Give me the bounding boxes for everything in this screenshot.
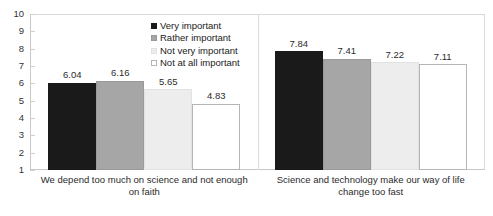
bar-value-label: 6.04 [48, 70, 96, 80]
y-axis-tick-label: 2 [19, 148, 24, 158]
bar-value-label: 5.65 [144, 77, 192, 87]
y-axis-tick-label: 9 [19, 27, 24, 37]
legend-swatch-icon [151, 35, 157, 41]
y-axis-tick-mark [30, 135, 35, 136]
y-axis-tick-label: 3 [19, 131, 24, 141]
bar-group: 7.847.417.227.11 [258, 14, 485, 170]
y-axis-tick-mark [30, 153, 35, 154]
bar-value-label: 7.41 [323, 46, 371, 56]
legend-item[interactable]: Not at all important [151, 58, 240, 68]
bar [275, 51, 323, 170]
y-axis-tick-label: 5 [19, 96, 24, 106]
legend-item-label: Not very important [160, 46, 238, 56]
bar-chart: 10987654321 6.046.165.654.837.847.417.22… [0, 0, 493, 216]
bar-slot: 7.22 [371, 14, 419, 170]
legend-item-label: Very important [160, 21, 221, 31]
legend-item-label: Rather important [160, 33, 231, 43]
y-axis-tick-mark [30, 118, 35, 119]
bar-slot: 7.11 [419, 14, 467, 170]
bar-slot: 7.41 [323, 14, 371, 170]
y-axis-tick-mark [30, 14, 35, 15]
bar-slot: 7.84 [275, 14, 323, 170]
y-axis-tick-mark [30, 170, 35, 171]
bar-groups: 6.046.165.654.837.847.417.227.11 [31, 14, 484, 170]
y-axis-tick-mark [30, 66, 35, 67]
category-label: We depend too much on science and not en… [31, 174, 258, 197]
chart-legend: Very importantRather importantNot very i… [151, 21, 240, 68]
y-axis-tick-label: 4 [19, 113, 24, 123]
bar-value-label: 4.83 [192, 91, 240, 101]
y-axis-tick-label: 8 [19, 44, 24, 54]
bar [96, 81, 144, 170]
category-axis-labels: We depend too much on science and not en… [31, 174, 484, 197]
bar [48, 83, 96, 170]
legend-swatch-icon [151, 23, 157, 29]
bar [192, 104, 240, 170]
legend-swatch-icon [151, 60, 157, 66]
category-label: Science and technology make our way of l… [258, 174, 485, 197]
legend-item-label: Not at all important [160, 58, 240, 68]
bar-value-label: 7.11 [419, 52, 467, 62]
bar-value-label: 7.84 [275, 39, 323, 49]
bar-value-label: 6.16 [96, 68, 144, 78]
bar [371, 62, 419, 170]
bar-value-label: 7.22 [371, 50, 419, 60]
y-axis-tick-mark [30, 101, 35, 102]
legend-swatch-icon [151, 48, 157, 54]
y-axis-tick-mark [30, 83, 35, 84]
bar [419, 64, 467, 170]
y-axis-tick-label: 7 [19, 61, 24, 71]
y-axis: 10987654321 [0, 14, 30, 170]
y-axis-tick-label: 10 [13, 9, 24, 19]
bar-group-bars: 7.847.417.227.11 [258, 14, 485, 170]
legend-item[interactable]: Rather important [151, 33, 240, 43]
legend-item[interactable]: Not very important [151, 46, 240, 56]
y-axis-tick-mark [30, 31, 35, 32]
legend-item[interactable]: Very important [151, 21, 240, 31]
bar [144, 89, 192, 170]
bar-slot: 6.16 [96, 14, 144, 170]
bar-slot: 6.04 [48, 14, 96, 170]
bar [323, 59, 371, 170]
y-axis-tick-label: 6 [19, 79, 24, 89]
y-axis-tick-label: 1 [19, 165, 24, 175]
y-axis-tick-mark [30, 49, 35, 50]
